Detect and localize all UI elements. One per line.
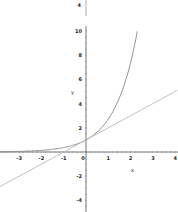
x-tick-label: 4 (173, 155, 177, 161)
exponential-curve (0, 31, 137, 152)
axes (0, 0, 178, 212)
y-tick-label: 10 (75, 28, 82, 34)
x-tick-label: 3 (151, 155, 155, 161)
y-tick-label: 8 (79, 52, 83, 58)
y-axis-label: y (71, 89, 74, 96)
y-tick-label: -4 (76, 197, 82, 203)
x-axis-label: x (131, 167, 134, 173)
y-tick-label: 4 (79, 101, 83, 107)
x-tick-label: -3 (16, 155, 22, 161)
tick-labels: 4-3-2-101234-4-2246810yx (16, 2, 177, 203)
plot: 4-3-2-101234-4-2246810yx (0, 0, 178, 212)
y-stub-tick-label: 4 (78, 2, 82, 8)
tangent-line (0, 90, 177, 187)
x-tick-label: -1 (61, 155, 67, 161)
series (0, 31, 177, 187)
y-tick-label: 6 (79, 76, 83, 82)
x-tick-label: -2 (39, 155, 45, 161)
x-tick-label: 2 (129, 155, 133, 161)
y-tick-label: 2 (79, 125, 83, 131)
y-tick-label: -2 (76, 173, 82, 179)
x-tick-label: 0 (81, 155, 85, 161)
x-tick-label: 1 (107, 155, 111, 161)
